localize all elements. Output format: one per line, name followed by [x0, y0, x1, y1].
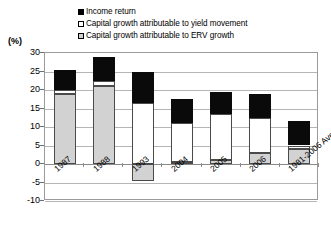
- x-axis-tick-mark: [83, 163, 84, 167]
- bar-segment-income-return[interactable]: [93, 57, 115, 81]
- y-axis-tick-label: -10: [14, 195, 40, 205]
- y-axis-tick-mark: [40, 145, 44, 146]
- gridline: [45, 201, 317, 202]
- bar-segment-income-return[interactable]: [249, 94, 271, 118]
- x-axis-tick-mark: [318, 163, 319, 167]
- y-axis-tick-mark: [40, 108, 44, 109]
- bar-segment-yield-movement[interactable]: [249, 118, 271, 153]
- y-axis-tick-mark: [40, 52, 44, 53]
- bar-segment-yield-movement[interactable]: [54, 90, 76, 94]
- bar-group[interactable]: [132, 53, 154, 199]
- bar-segment-erv-growth[interactable]: [54, 94, 76, 164]
- x-axis-tick-mark: [161, 163, 162, 167]
- bar-group[interactable]: [288, 53, 310, 199]
- y-axis-tick-mark: [40, 200, 44, 201]
- bar-group[interactable]: [210, 53, 232, 199]
- bar-segment-income-return[interactable]: [288, 121, 310, 145]
- y-axis-tick-mark: [40, 163, 44, 164]
- bar-segment-erv-growth[interactable]: [93, 86, 115, 164]
- legend-label-erv-growth: Capital growth attributable to ERV growt…: [86, 30, 234, 41]
- bar-segment-yield-movement[interactable]: [93, 81, 115, 87]
- y-axis-tick-label: 30: [14, 47, 40, 57]
- x-axis-tick-mark: [240, 163, 241, 167]
- bar-group[interactable]: [171, 53, 193, 199]
- y-axis-tick-mark: [40, 71, 44, 72]
- plot-area: [44, 52, 318, 200]
- y-axis-tick-mark: [40, 89, 44, 90]
- bar-group[interactable]: [93, 53, 115, 199]
- legend-item-erv-growth: Capital growth attributable to ERV growt…: [78, 30, 248, 41]
- bar-group[interactable]: [249, 53, 271, 199]
- y-axis-tick-label: 25: [14, 66, 40, 76]
- y-axis-unit-label: (%): [8, 36, 22, 46]
- bar-segment-income-return[interactable]: [210, 92, 232, 114]
- legend-label-income-return: Income return: [86, 6, 136, 17]
- y-axis-tick-label: 0: [14, 158, 40, 168]
- legend-label-yield-movement: Capital growth attributable to yield mov…: [86, 18, 248, 29]
- chart-figure: Income return Capital growth attributabl…: [0, 0, 331, 246]
- y-axis-tick-mark: [40, 182, 44, 183]
- legend-item-yield-movement: Capital growth attributable to yield mov…: [78, 18, 248, 29]
- grey-square-icon: [78, 33, 84, 39]
- y-axis-tick-label: 10: [14, 121, 40, 131]
- y-axis-tick-label: 5: [14, 140, 40, 150]
- x-axis-tick-mark: [201, 163, 202, 167]
- x-axis-tick-mark: [279, 163, 280, 167]
- white-square-icon: [78, 21, 84, 27]
- bar-segment-income-return[interactable]: [132, 72, 154, 103]
- y-axis-tick-mark: [40, 126, 44, 127]
- legend-item-income-return: Income return: [78, 6, 248, 17]
- chart-legend: Income return Capital growth attributabl…: [78, 6, 248, 41]
- x-axis-tick-mark: [122, 163, 123, 167]
- y-axis-tick-label: 15: [14, 103, 40, 113]
- y-axis-tick-label: 20: [14, 84, 40, 94]
- bar-group[interactable]: [54, 53, 76, 199]
- bar-segment-income-return[interactable]: [171, 99, 193, 123]
- bar-segment-income-return[interactable]: [54, 70, 76, 90]
- black-square-icon: [78, 9, 84, 15]
- y-axis-tick-label: -5: [14, 177, 40, 187]
- bar-series-layer: [45, 53, 317, 199]
